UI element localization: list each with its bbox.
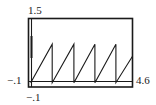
chart-plot: [0, 0, 156, 105]
plot-frame: [29, 19, 133, 88]
sawtooth-series-line: [31, 44, 133, 82]
y-min-tick-label: −.1: [7, 75, 21, 86]
x-max-tick-label: 4.6: [136, 75, 150, 86]
x-min-tick-label: −.1: [26, 92, 40, 103]
y-max-tick-label: 1.5: [28, 5, 42, 16]
